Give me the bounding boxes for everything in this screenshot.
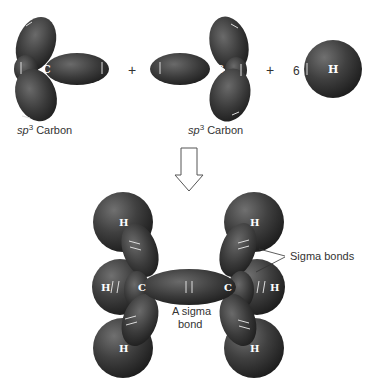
sigma-bonds-label: Sigma bonds	[290, 250, 355, 262]
plus-sign: +	[266, 62, 274, 78]
down-arrow-icon	[175, 148, 203, 191]
right-carbon-caption: sp3 Carbon	[188, 123, 243, 137]
orbital-lobe-down	[204, 64, 257, 127]
plus-sign: +	[128, 62, 136, 78]
hydrogen-label: H	[119, 217, 128, 228]
carbon-label: C	[138, 282, 146, 293]
hydrogen-label: H	[270, 282, 279, 293]
cc-sigma-bond-label: A sigma	[172, 305, 212, 317]
ethane-molecule: C C H H H H H H A sigma bond Sigma bonds	[92, 192, 355, 378]
orbital-lobe-right	[45, 53, 109, 85]
cc-sigma-bond-label-line2: bond	[178, 318, 202, 330]
orbital-lobe-left	[150, 53, 210, 85]
hydrogen-label: H	[119, 343, 128, 354]
hydrogen-atoms: 6 H	[293, 40, 362, 98]
carbon-label: C	[42, 63, 51, 76]
cc-sigma-bond	[142, 269, 236, 305]
carbon-label: C	[215, 63, 224, 76]
right-sp3-carbon: C sp3 Carbon	[150, 12, 256, 136]
left-sp3-carbon: C sp3 Carbon	[8, 11, 109, 136]
carbon-label: C	[224, 282, 232, 293]
ethane-sigma-bond-diagram: C sp3 Carbon + C sp3 Carbon + 6 H	[0, 0, 370, 386]
hydrogen-label: H	[328, 63, 338, 76]
left-carbon-caption: sp3 Carbon	[17, 123, 72, 137]
hydrogen-label: H	[250, 217, 259, 228]
hydrogen-coefficient: 6	[293, 64, 300, 78]
hydrogen-label: H	[250, 343, 259, 354]
hydrogen-label: H	[101, 282, 110, 293]
